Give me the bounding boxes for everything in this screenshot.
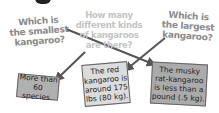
answer-box-species: More than 60 species. [16,73,60,101]
answer-line: pound (.5 kg). [152,92,205,104]
question-line: different kinds [74,20,144,30]
answer-line: 60 species. [17,81,58,102]
question-smallest: Which is the smallest kangaroo? [7,14,71,48]
question-line: of kangaroos [74,30,144,40]
answer-box-musky-rat-kangaroo: The musky rat-kangaroo is less than a po… [150,62,208,107]
question-line: How many [74,10,144,20]
question-line: are there? [74,40,144,50]
question-largest: Which is the largest kangaroo? [157,9,219,43]
question-how-many: How many different kinds of kangaroos ar… [74,10,144,50]
answer-box-red-kangaroo: The red kangaroo is around 175 lbs (80 k… [81,61,130,107]
